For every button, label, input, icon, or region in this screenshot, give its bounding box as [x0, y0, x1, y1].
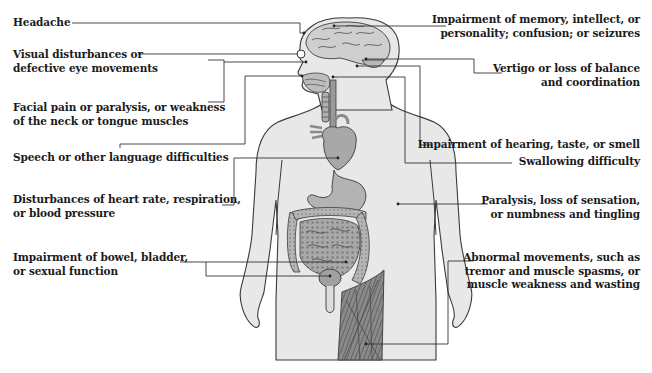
label-line: or sexual function	[13, 265, 188, 279]
label-line: tremor and muscle spasms, or	[463, 265, 640, 279]
label-paralysis: Paralysis, loss of sensation, or numbnes…	[481, 194, 640, 221]
label-vertigo: Vertigo or loss of balance and coordinat…	[493, 62, 640, 89]
label-line: Impairment of memory, intellect, or	[432, 13, 640, 27]
label-facial-pain: Facial pain or paralysis, or weakness of…	[13, 101, 225, 128]
label-hearing-taste-smell: Impairment of hearing, taste, or smell	[418, 138, 640, 152]
label-line: Visual disturbances or	[13, 48, 158, 62]
label-line: and coordination	[493, 76, 640, 90]
label-swallowing: Swallowing difficulty	[519, 155, 640, 169]
label-line: muscle weakness and wasting	[463, 278, 640, 292]
label-line: of the neck or tongue muscles	[13, 115, 225, 129]
label-abnormal-movements: Abnormal movements, such as tremor and m…	[463, 251, 640, 292]
label-line: Vertigo or loss of balance	[493, 62, 640, 76]
label-line: or blood pressure	[13, 207, 241, 221]
label-line: Impairment of bowel, bladder,	[13, 251, 188, 265]
label-line: Paralysis, loss of sensation,	[481, 194, 640, 208]
label-line: Swallowing difficulty	[519, 155, 640, 169]
label-line: Impairment of hearing, taste, or smell	[418, 138, 640, 152]
label-memory-intellect: Impairment of memory, intellect, or pers…	[432, 13, 640, 40]
eye-marker	[297, 50, 305, 58]
label-speech: Speech or other language difficulties	[13, 151, 229, 165]
symptom-body-diagram: Headache Visual disturbances or defectiv…	[0, 0, 652, 373]
label-line: Disturbances of heart rate, respiration,	[13, 193, 241, 207]
label-line: Abnormal movements, such as	[463, 251, 640, 265]
label-line: Facial pain or paralysis, or weakness	[13, 101, 225, 115]
label-heart-rate: Disturbances of heart rate, respiration,…	[13, 193, 241, 220]
label-line: defective eye movements	[13, 62, 158, 76]
label-headache: Headache	[13, 16, 70, 30]
label-line: Headache	[13, 16, 70, 30]
label-bowel-bladder: Impairment of bowel, bladder, or sexual …	[13, 251, 188, 278]
label-line: or numbness and tingling	[481, 208, 640, 222]
label-visual-disturbances: Visual disturbances or defective eye mov…	[13, 48, 158, 75]
label-line: Speech or other language difficulties	[13, 151, 229, 165]
label-line: personality; confusion; or seizures	[432, 27, 640, 41]
